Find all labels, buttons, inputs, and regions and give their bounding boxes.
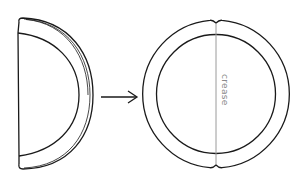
fold-diagram: crease xyxy=(0,0,304,180)
half-ring-inner-edge xyxy=(18,33,79,156)
folded-half-ring xyxy=(18,18,93,169)
half-ring-outer-edge-layer-2 xyxy=(24,19,90,168)
half-ring-outer-edge xyxy=(19,18,93,169)
crease-label: crease xyxy=(220,74,230,106)
arrow-right-icon xyxy=(101,91,137,103)
unfolded-ring: crease xyxy=(143,20,290,168)
half-ring-fold-edge xyxy=(18,22,19,164)
